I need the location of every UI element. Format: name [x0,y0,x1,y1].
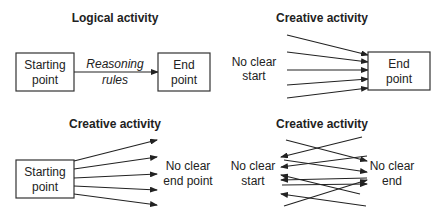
diverging-arrows [74,140,157,205]
arrow-label-line1: Reasoning [86,57,144,71]
box-label-line1: Starting [24,58,65,72]
panel-title: Creative activity [69,117,161,131]
box-label-line1: End [173,58,194,72]
box-label-line1: End [388,57,409,71]
start-text-line2: start [241,174,265,188]
crossing-arrows [281,137,367,206]
end-text-line1: No clear [370,159,415,173]
panel-creative-diverging: Creative activity Starting point No clea… [16,117,213,205]
panel-title: Creative activity [276,11,368,25]
panel-title: Logical activity [72,11,159,25]
end-text-line2: end point [163,174,213,188]
box-label-line2: point [32,180,59,194]
panel-creative-converging: Creative activity No clear start End poi… [232,11,430,98]
start-text-line1: No clear [231,159,276,173]
box-label-line2: point [171,73,198,87]
panel-title: Creative activity [276,117,368,131]
panel-creative-chaotic: Creative activity No clear start No clea… [231,117,415,206]
end-text-line2: end [382,174,402,188]
box-label-line2: point [386,72,413,86]
end-text-line1: No clear [166,159,211,173]
activity-diagram: Logical activity Starting point Reasonin… [0,0,435,223]
converging-arrows [287,35,368,98]
end-point-box: End point [368,52,430,90]
starting-point-box: Starting point [16,160,74,198]
starting-point-box: Starting point [16,53,74,91]
box-label-line2: point [32,73,59,87]
box-label-line1: Starting [24,165,65,179]
start-text-line1: No clear [232,55,277,69]
start-text-line2: start [242,69,266,83]
panel-logical-activity: Logical activity Starting point Reasonin… [16,11,210,91]
arrow-label-line2: rules [102,73,128,87]
end-point-box: End point [158,53,210,91]
